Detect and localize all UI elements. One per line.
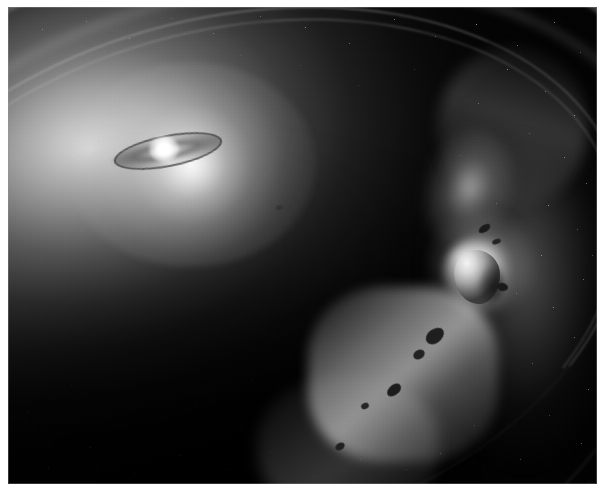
astronomy-illustration xyxy=(8,7,597,484)
central-star-core xyxy=(149,136,179,162)
central-star-glow xyxy=(66,62,316,267)
image-credit-line xyxy=(0,486,601,500)
outer-ring-arc-segment-lower xyxy=(258,377,438,484)
screenshot-root xyxy=(0,0,607,500)
